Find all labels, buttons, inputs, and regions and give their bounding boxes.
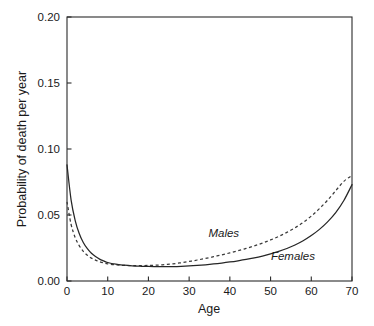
x-tick-label-40: 40 xyxy=(223,285,236,297)
x-tick-label-50: 50 xyxy=(264,285,277,297)
x-axis-tick-marks xyxy=(67,277,352,282)
y-tick-label-0.05: 0.05 xyxy=(38,209,60,221)
x-axis-tick-labels: 010203040506070 xyxy=(64,285,359,297)
y-tick-label-0.20: 0.20 xyxy=(38,11,60,23)
x-tick-label-10: 10 xyxy=(101,285,114,297)
y-tick-label-0.00: 0.00 xyxy=(38,275,60,287)
figure-container: 010203040506070 0.000.050.100.150.20 Mal… xyxy=(0,0,374,326)
y-axis-tick-labels: 0.000.050.100.150.20 xyxy=(38,11,60,287)
y-tick-label-0.10: 0.10 xyxy=(38,143,60,155)
plot-frame xyxy=(67,17,352,281)
females-curve-label: Females xyxy=(271,250,315,262)
mortality-line-chart: 010203040506070 0.000.050.100.150.20 Mal… xyxy=(0,0,374,326)
x-tick-label-60: 60 xyxy=(305,285,318,297)
males-curve-label: Males xyxy=(208,227,239,239)
x-tick-label-30: 30 xyxy=(183,285,196,297)
y-axis-title: Probability of death per year xyxy=(15,71,29,227)
x-tick-label-70: 70 xyxy=(346,285,359,297)
x-axis-title: Age xyxy=(198,302,220,316)
y-tick-label-0.15: 0.15 xyxy=(38,77,60,89)
x-tick-label-20: 20 xyxy=(142,285,155,297)
x-tick-label-0: 0 xyxy=(64,285,70,297)
y-axis-tick-marks xyxy=(67,17,72,281)
